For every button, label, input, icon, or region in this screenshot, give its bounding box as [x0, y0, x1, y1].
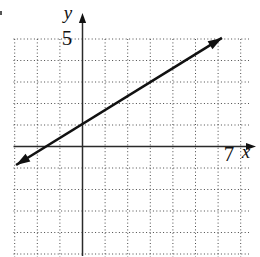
stray-scan-mark	[0, 11, 2, 15]
y-axis-label: y	[62, 2, 73, 23]
coordinate-plane: y 5 7 x	[0, 0, 260, 257]
x-axis-label: x	[241, 141, 251, 162]
graph-figure: y 5 7 x	[0, 0, 260, 257]
y-tick-label-5: 5	[62, 26, 73, 50]
x-tick-label-7: 7	[224, 142, 235, 166]
